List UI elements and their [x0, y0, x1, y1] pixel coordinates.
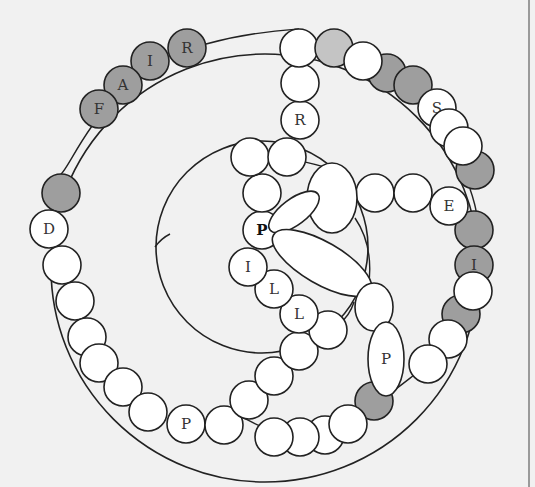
white-bead [268, 138, 306, 176]
white-bead [409, 345, 447, 383]
bead-letter: L [294, 305, 304, 323]
bead [356, 174, 394, 212]
white-bead [280, 29, 318, 67]
bead [43, 246, 81, 284]
bead [255, 418, 293, 456]
bead: P [167, 405, 205, 443]
bead: R [168, 29, 206, 67]
bead-letter: R [181, 39, 193, 57]
bead [280, 29, 318, 67]
bead-letter: P [181, 415, 191, 433]
bead [129, 393, 167, 431]
white-bead [356, 174, 394, 212]
bead: R [281, 101, 319, 139]
bead-letter: R [294, 111, 306, 129]
white-bead [344, 42, 382, 80]
bead [268, 138, 306, 176]
bead-diagram: RIAFDPLLIPRSEI P [0, 0, 535, 487]
bead-letter: I [147, 52, 153, 70]
bead-letter: D [43, 220, 55, 238]
bead [344, 42, 382, 80]
bead [231, 138, 269, 176]
white-bead [231, 138, 269, 176]
white-bead [454, 272, 492, 310]
bead-letter: I [245, 258, 251, 276]
bead [394, 174, 432, 212]
bead-letter: A [117, 76, 129, 94]
oval-letter: P [381, 350, 391, 368]
right-frame-line [528, 0, 530, 487]
bead [243, 174, 281, 212]
bead: F [80, 90, 118, 128]
bead [454, 272, 492, 310]
white-bead [255, 418, 293, 456]
tall-p-oval: P [368, 322, 404, 396]
white-bead [281, 64, 319, 102]
bead [409, 345, 447, 383]
bead: D [30, 210, 68, 248]
bead-letter: L [269, 280, 279, 298]
white-bead [129, 393, 167, 431]
bead: E [430, 187, 468, 225]
white-bead [56, 282, 94, 320]
white-bead [444, 127, 482, 165]
white-bead [43, 246, 81, 284]
bead [42, 174, 80, 212]
bead [281, 64, 319, 102]
white-bead [329, 405, 367, 443]
bead-circles: RIAFDPLLIPRSEI [30, 29, 494, 456]
bead-letter: P [256, 221, 267, 239]
bead [329, 405, 367, 443]
bead [56, 282, 94, 320]
bead [444, 127, 482, 165]
bead-letter: F [94, 100, 104, 118]
white-bead [394, 174, 432, 212]
white-bead [243, 174, 281, 212]
bead-letter: E [444, 197, 455, 215]
bead: I [229, 248, 267, 286]
gray-bead [42, 174, 80, 212]
